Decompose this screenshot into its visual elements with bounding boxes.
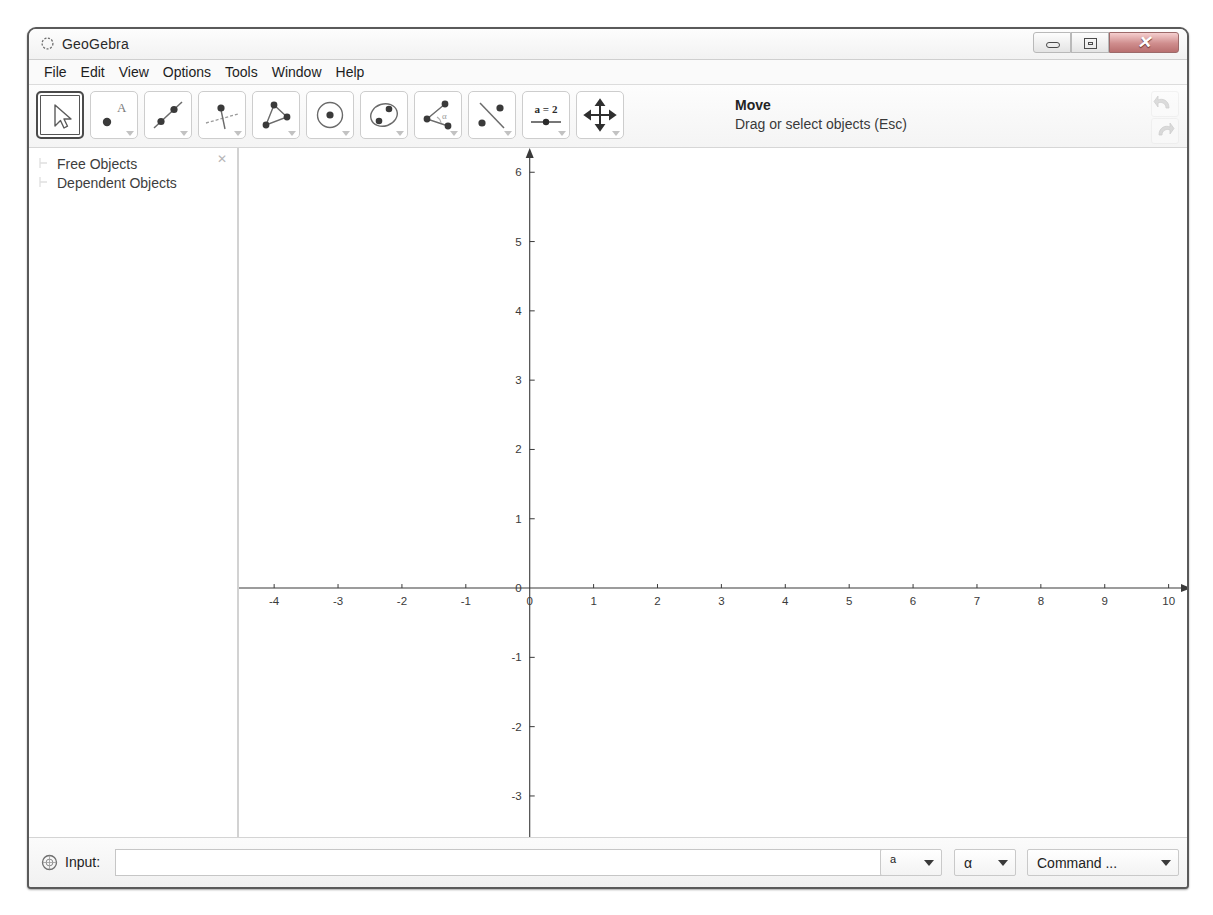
algebra-view: ✕ Free Objects Dependent Objects [29, 148, 237, 837]
graphics-view[interactable]: -4-3-2-1012345678910-3-2-10123456 [239, 148, 1187, 837]
undo-button[interactable] [1151, 91, 1179, 117]
close-button[interactable]: ✕ [1109, 32, 1179, 53]
minimize-button[interactable] [1033, 32, 1071, 53]
chevron-down-icon[interactable] [180, 131, 188, 136]
menu-item-edit[interactable]: Edit [74, 62, 112, 82]
svg-text:1: 1 [515, 513, 521, 525]
svg-text:8: 8 [1038, 595, 1044, 607]
chevron-down-icon[interactable] [234, 131, 242, 136]
geogebra-input-icon [41, 854, 58, 871]
chevron-down-icon[interactable] [1161, 860, 1171, 866]
svg-text:2: 2 [654, 595, 660, 607]
reflect-tool[interactable] [468, 91, 516, 139]
menu-item-file[interactable]: File [37, 62, 74, 82]
chevron-down-icon[interactable] [558, 131, 566, 136]
svg-text:3: 3 [718, 595, 724, 607]
redo-arrow-icon [1152, 119, 1176, 141]
svg-text:α: α [442, 111, 447, 121]
svg-text:5: 5 [846, 595, 852, 607]
svg-text:4: 4 [515, 305, 522, 317]
svg-text:3: 3 [515, 374, 521, 386]
geogebra-logo-icon [40, 36, 55, 51]
circle-tool[interactable] [306, 91, 354, 139]
chevron-down-icon[interactable] [998, 860, 1008, 866]
command-dropdown[interactable]: Command ... [1027, 849, 1179, 876]
undo-arrow-icon [1152, 92, 1176, 114]
svg-text:-3: -3 [511, 790, 521, 802]
input-field[interactable] [115, 849, 883, 876]
svg-text:-1: -1 [511, 651, 521, 663]
maximize-button[interactable] [1071, 32, 1109, 53]
algebra-item-free-objects[interactable]: Free Objects [29, 154, 237, 173]
perpendicular-line-tool[interactable] [198, 91, 246, 139]
command-dropdown-label: Command ... [1028, 855, 1154, 871]
greek-symbol-dropdown[interactable]: α [954, 849, 1016, 876]
svg-text:1: 1 [590, 595, 596, 607]
tool-help-title: Move [735, 97, 907, 113]
slider-tool[interactable]: a = 2 [522, 91, 570, 139]
toolbar: A [29, 85, 1187, 148]
geogebra-window: GeoGebra ✕ File Edit View Options Tools … [27, 27, 1189, 889]
svg-text:4: 4 [782, 595, 789, 607]
tool-help-description: Drag or select objects (Esc) [735, 116, 907, 132]
menu-item-options[interactable]: Options [156, 62, 218, 82]
svg-text:0: 0 [515, 582, 521, 594]
svg-text:0: 0 [527, 595, 533, 607]
chevron-down-icon[interactable] [450, 131, 458, 136]
move-graphics-view-tool[interactable] [576, 91, 624, 139]
chevron-down-icon[interactable] [126, 131, 134, 136]
menu-bar: File Edit View Options Tools Window Help [29, 60, 1187, 85]
svg-text:A: A [117, 100, 127, 115]
input-label: Input: [65, 854, 100, 870]
chevron-down-icon[interactable] [288, 131, 296, 136]
redo-button[interactable] [1151, 118, 1179, 144]
svg-text:2: 2 [515, 443, 521, 455]
svg-text:10: 10 [1162, 595, 1175, 607]
greek-symbol-dropdown-label: α [955, 855, 991, 871]
chevron-down-icon[interactable] [342, 131, 350, 136]
conic-tool[interactable] [360, 91, 408, 139]
svg-text:a = 2: a = 2 [535, 103, 558, 115]
algebra-item-label: Dependent Objects [57, 175, 177, 191]
close-icon: ✕ [1110, 33, 1178, 52]
chevron-down-icon[interactable] [396, 131, 404, 136]
tree-expand-icon [38, 176, 49, 189]
tree-expand-icon [38, 157, 49, 170]
move-tool[interactable] [36, 91, 84, 139]
coordinate-plane[interactable]: -4-3-2-1012345678910-3-2-10123456 [239, 148, 1187, 837]
algebra-item-label: Free Objects [57, 156, 137, 172]
menu-item-view[interactable]: View [112, 62, 156, 82]
line-tool[interactable] [144, 91, 192, 139]
svg-text:9: 9 [1102, 595, 1108, 607]
input-bar: Input: a α Command ... [29, 837, 1187, 887]
polygon-tool[interactable] [252, 91, 300, 139]
svg-text:6: 6 [515, 166, 521, 178]
svg-text:5: 5 [515, 236, 521, 248]
chevron-down-icon[interactable] [612, 131, 620, 136]
svg-text:6: 6 [910, 595, 916, 607]
point-tool[interactable]: A [90, 91, 138, 139]
tool-help: Move Drag or select objects (Esc) [735, 97, 907, 132]
svg-text:7: 7 [974, 595, 980, 607]
svg-text:-2: -2 [511, 721, 521, 733]
svg-text:-2: -2 [397, 595, 407, 607]
svg-text:-4: -4 [269, 595, 280, 607]
menu-item-window[interactable]: Window [265, 62, 329, 82]
algebra-item-dependent-objects[interactable]: Dependent Objects [29, 173, 237, 192]
exponent-dropdown-label: a [881, 853, 917, 865]
chevron-down-icon[interactable] [924, 860, 934, 866]
exponent-dropdown[interactable]: a [880, 849, 942, 876]
menu-item-help[interactable]: Help [329, 62, 372, 82]
menu-item-tools[interactable]: Tools [218, 62, 265, 82]
svg-text:-1: -1 [461, 595, 471, 607]
svg-text:-3: -3 [333, 595, 343, 607]
chevron-down-icon[interactable] [504, 131, 512, 136]
angle-tool[interactable]: α [414, 91, 462, 139]
title-bar: GeoGebra ✕ [29, 29, 1187, 60]
window-title: GeoGebra [62, 36, 129, 52]
